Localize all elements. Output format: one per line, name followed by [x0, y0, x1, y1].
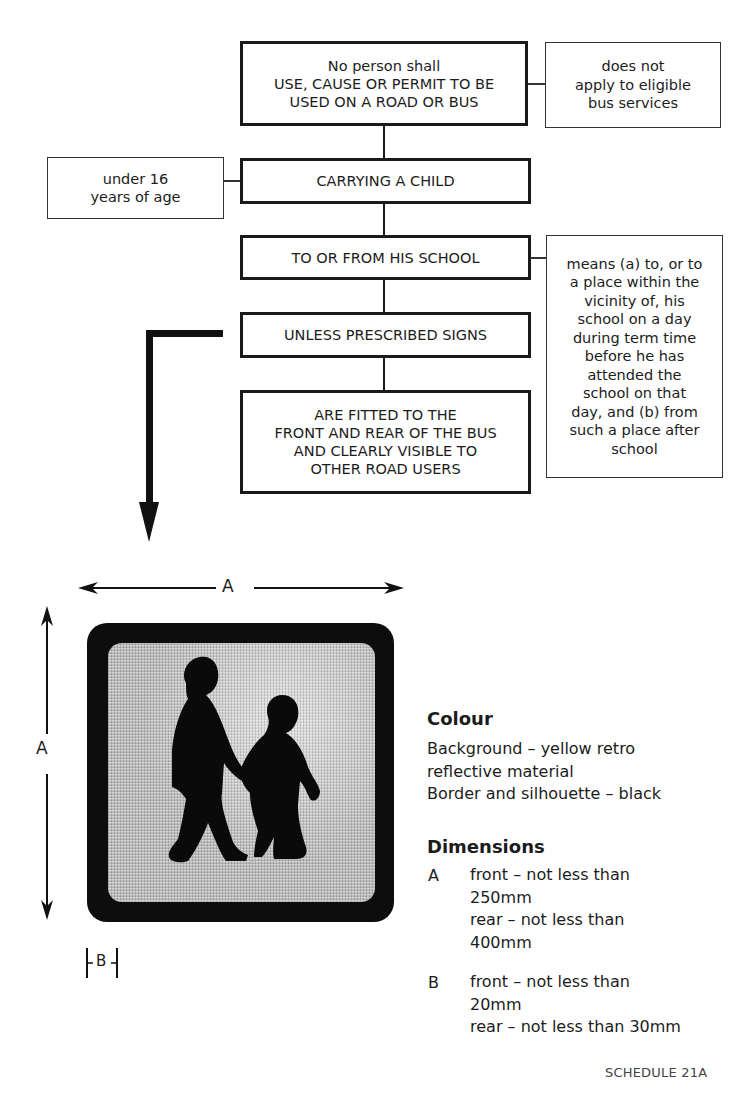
pointer-arrow-horizontal	[146, 330, 223, 337]
side-note-text: does not apply to eligible bus services	[575, 57, 691, 113]
dimension-item-text-a: front – not less than 250mm rear – not l…	[470, 864, 630, 954]
flow-box-are-fitted: ARE FITTED TO THE FRONT AND REAR OF THE …	[240, 390, 531, 494]
connector-side-note-0	[527, 83, 546, 85]
flow-box-unless-prescribed-signs: UNLESS PRESCRIBED SIGNS	[240, 312, 531, 358]
children-silhouette-icon	[108, 643, 375, 902]
dimension-label-width: A	[216, 576, 240, 596]
arrow-down-icon	[138, 502, 160, 542]
dimension-item-label-b: B	[428, 973, 439, 992]
side-note-text: means (a) to, or to a place within the v…	[567, 255, 703, 459]
pointer-arrow-vertical	[146, 330, 153, 510]
flow-box-text: CARRYING A CHILD	[316, 172, 454, 190]
dimension-arrow-vertical	[39, 606, 55, 920]
flow-box-text: No person shall USE, CAUSE OR PERMIT TO …	[274, 57, 494, 111]
schedule-reference: SCHEDULE 21A	[605, 1065, 707, 1080]
dimension-label-height: A	[34, 738, 50, 758]
colour-heading: Colour	[427, 708, 493, 729]
connector-main-1-2	[383, 125, 385, 159]
school-children-sign	[87, 623, 394, 922]
side-note-eligible-bus-services: does not apply to eligible bus services	[545, 42, 721, 128]
side-note-under-16: under 16 years of age	[47, 157, 224, 219]
flow-box-text: ARE FITTED TO THE FRONT AND REAR OF THE …	[274, 406, 496, 478]
connector-side-note-1	[223, 180, 241, 182]
dimension-item-text-b: front – not less than 20mm rear – not le…	[470, 971, 681, 1039]
sign-reflective-background	[108, 643, 375, 902]
connector-main-4-5	[383, 357, 385, 391]
flow-box-to-or-from-school: TO OR FROM HIS SCHOOL	[240, 235, 531, 280]
connector-side-note-2	[530, 257, 547, 259]
flow-box-text: TO OR FROM HIS SCHOOL	[291, 249, 479, 267]
dimensions-heading: Dimensions	[427, 836, 545, 857]
dimension-arrow-horizontal	[78, 580, 404, 596]
connector-main-2-3	[383, 203, 385, 236]
flow-box-carrying-a-child: CARRYING A CHILD	[240, 158, 531, 204]
connector-main-3-4	[383, 279, 385, 313]
side-note-text: under 16 years of age	[90, 170, 180, 207]
side-note-school-definition: means (a) to, or to a place within the v…	[546, 235, 723, 478]
flow-box-no-person-shall: No person shall USE, CAUSE OR PERMIT TO …	[240, 41, 528, 126]
flow-box-text: UNLESS PRESCRIBED SIGNS	[284, 326, 487, 344]
dimension-label-border: B	[96, 952, 106, 970]
colour-description: Background – yellow retro reflective mat…	[427, 738, 661, 806]
dimension-item-label-a: A	[428, 866, 439, 885]
